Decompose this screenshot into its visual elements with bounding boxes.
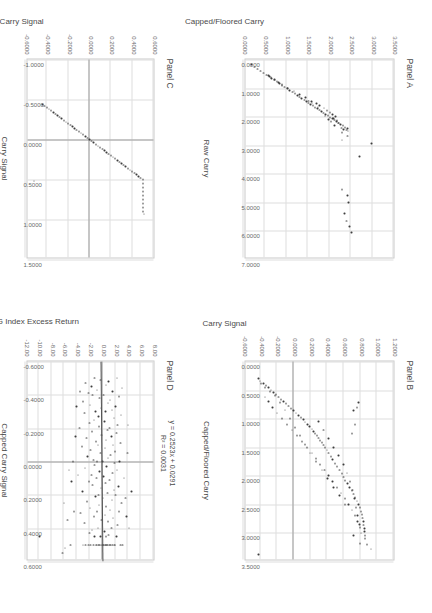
panel-d-data-point [97,494,99,496]
panel-d-data-point [125,515,127,517]
panel-d-data-point [126,452,128,454]
panel-d-data-point [118,460,120,462]
panel-d-xtick-label: -0.6000 [23,363,43,369]
panel-c-x-axis-title: Carry Signal [0,136,8,180]
panel-b-data-point [344,503,346,505]
panel-d-data-point [117,485,119,487]
panel-a-data-point [315,102,317,104]
panel-a-xtick-label: 5.0000 [241,204,259,210]
panel-b-data-point [286,423,288,425]
panel-a-x-axis-title: Raw Carry [201,139,210,177]
panel-b-data-point [364,537,366,539]
panel-d-data-point [119,544,121,546]
panel-c-data-point [90,140,92,142]
panel-b-ytick-label: 0.4000 [324,314,330,356]
panel-d-data-point [114,450,116,452]
panel-b-data-point [327,452,329,454]
panel-c-y-axis-title: Capped Carry Signal [0,16,90,25]
panel-b-data-point [359,506,361,508]
panel-a-data-point [341,131,343,133]
panel-a-data-point [324,115,326,117]
panel-c-data-point [107,153,109,155]
panel-a-data-point [298,96,300,98]
panel-b-data-point [276,412,278,414]
panel-d-data-point [97,415,99,417]
panel-b-data-point [340,492,342,494]
panel-d-data-point [110,435,112,437]
panel-d-data-point [111,544,113,546]
panel-b-data-point [280,398,282,400]
panel-a-data-point [256,68,258,70]
panel-a-data-point [325,113,327,115]
panel-b-data-point [316,434,318,436]
panel-d-data-point [118,395,120,397]
panel-d-xtick-label: 0.6000 [23,563,41,569]
panel-c-data-point [86,137,88,139]
panel-d-data-point [105,384,107,386]
panel-b-series [243,361,393,561]
panel-c-data-point [99,146,101,148]
panel-b-xtick-label: 1.0000 [241,420,259,426]
panel-d-data-point [130,490,132,492]
panel-d-data-point [123,477,125,479]
panel-a-data-point [332,117,334,119]
panel-d-data-point [108,427,110,429]
panel-d-equation-text: y = 0.2523x + 0.0291 [167,420,176,486]
panel-b-data-point [357,503,359,505]
panel-c-xtick-label: 0.5000 [23,181,41,187]
panel-a-title: Panel A [404,58,414,87]
panel-d-data-point [93,419,95,421]
panel-d-data-point [103,530,105,532]
panel-a-data-point [333,124,335,126]
panel-c-data-point [131,170,133,172]
panel-d-data-point [124,497,126,499]
panel-d-data-point [94,410,96,412]
panel-d-ytick-label: 6.00 [138,314,144,356]
panel-b-data-point [352,493,354,495]
panel-a-data-point [347,201,349,203]
panel-d-data-point [114,405,116,407]
panel-a-data-point [347,130,349,132]
panel-b-data-point [360,510,362,512]
panel-a-data-point [262,72,264,74]
panel-d-data-point [109,509,111,511]
panel-b-data-point [348,486,350,488]
panel-d-data-point [90,474,92,476]
panel-d-data-point [79,390,81,392]
panel-d-data-point [106,429,108,431]
panel-d-data-point [104,410,106,412]
panel-a-ytick-label: 2.0000 [327,12,333,54]
panel-c-data-point [101,148,103,150]
panel-b-data-point [326,477,328,479]
panel-d-data-point [86,455,88,457]
panel-c-data-point [48,108,50,110]
panel-d-data-point [107,520,109,522]
panel-b-data-point [326,449,328,451]
panel-a-xtick-label: 7.0000 [241,261,259,267]
panel-b-data-point [344,497,346,499]
panel-d-data-point [88,480,90,482]
panel-d-data-point [95,544,97,546]
panel-b-data-point [344,479,346,481]
panel-d-data-point [118,510,120,512]
panel-a-data-point [316,107,318,109]
panel-d-data-point [77,474,79,476]
panel-a-xtick-label: 4.0000 [241,175,259,181]
panel-b-data-point [361,517,363,519]
panel-d-data-point [92,459,94,461]
panel-a-data-point [345,129,347,131]
panel-d-data-point [121,387,123,389]
panel-d-plot-area [26,360,154,560]
panel-d-data-point [87,392,89,394]
panel-d-data-point [87,544,89,546]
panel-d-data-point [84,467,86,469]
panel-b-data-point [322,429,324,431]
panel-b-data-point [327,437,329,439]
panel-a-data-point [273,78,275,80]
panel-b-data-point [352,409,354,411]
panel-d-data-point [107,380,109,382]
panel-d-data-point [110,527,112,529]
panel-b-data-point [271,406,273,408]
panel-a-data-point [370,142,372,144]
panel-d-data-point [93,464,95,466]
